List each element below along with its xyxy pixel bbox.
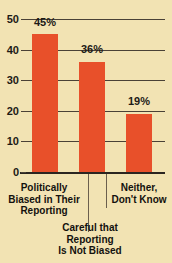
y-tick-label-0: 0: [0, 167, 19, 178]
y-tick-dash-30: [21, 80, 26, 81]
bar-politically-biased: [32, 34, 58, 172]
y-tick-label-40: 40: [0, 45, 19, 56]
y-tick-label-10: 10: [0, 136, 19, 147]
y-tick-label-20: 20: [0, 106, 19, 117]
bar-careful-not-biased: [79, 62, 105, 172]
y-tick-dash-10: [21, 141, 26, 142]
category-label-neither-dont-know: Neither, Don't Know: [106, 182, 172, 205]
y-tick-dash-0: [21, 172, 26, 173]
x-axis-baseline: [20, 172, 165, 174]
bar-value-label-3: 19%: [119, 96, 159, 107]
category-label-politically-biased: Politically Biased in Their Reporting: [0, 182, 88, 217]
y-tick-label-50: 50: [0, 14, 19, 25]
category-label-careful-not-biased: Careful that Reporting Is Not Biased: [36, 222, 144, 257]
y-tick-dash-20: [21, 111, 26, 112]
bar-value-label-1: 45%: [25, 17, 65, 28]
bar-neither-dont-know: [126, 114, 152, 172]
y-tick-dash-40: [21, 50, 26, 51]
y-tick-label-30: 30: [0, 75, 19, 86]
bar-chart: 50 40 30 20 10 0 45% 36% 19% Politically…: [0, 0, 172, 263]
bar-value-label-2: 36%: [72, 44, 112, 55]
